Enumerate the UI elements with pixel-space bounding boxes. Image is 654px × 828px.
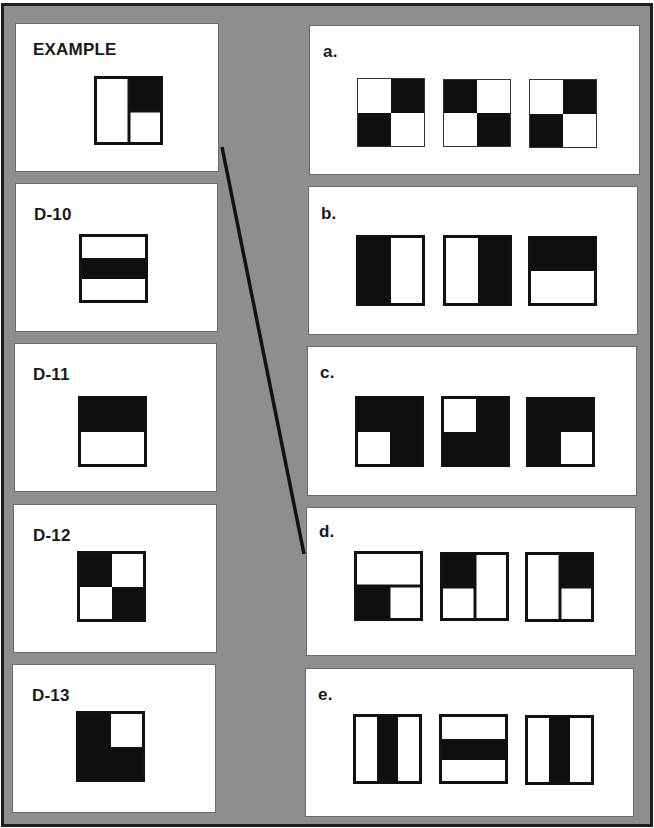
black-region — [129, 79, 161, 111]
panel-label: D-10 — [34, 206, 72, 223]
black-region — [530, 114, 563, 148]
choice-panel-e[interactable]: e. — [305, 668, 634, 817]
choice-figure-2 — [443, 235, 512, 306]
choice-figure-1 — [357, 78, 425, 147]
black-region — [442, 739, 505, 760]
panel-label: EXAMPLE — [33, 41, 117, 58]
black-region — [390, 432, 422, 465]
black-region — [358, 113, 391, 147]
black-region — [529, 400, 592, 432]
choice-panel-c[interactable]: c. — [307, 346, 637, 496]
choice-label: d. — [319, 523, 335, 540]
black-region — [478, 238, 510, 303]
black-region — [81, 399, 144, 432]
choice-figure-3 — [526, 397, 595, 467]
stimulus-figure — [76, 711, 145, 782]
panel-label: D-11 — [33, 366, 70, 383]
black-region — [112, 587, 144, 620]
choice-figure-1 — [355, 396, 424, 467]
black-region — [563, 80, 596, 114]
panel-d-13: D-13 — [12, 664, 216, 813]
horizontal-divider — [560, 586, 592, 589]
black-region — [391, 79, 424, 113]
black-region — [357, 586, 389, 618]
panel-d-12: D-12 — [13, 504, 217, 653]
choice-label: a. — [323, 43, 338, 60]
choice-figure-2 — [439, 714, 508, 784]
choice-figure-1 — [354, 551, 423, 621]
black-region — [358, 399, 421, 432]
stimulus-figure — [94, 76, 163, 145]
black-region — [531, 239, 594, 271]
stimulus-figure — [77, 551, 146, 622]
horizontal-divider — [129, 109, 161, 112]
choice-figure-2 — [440, 552, 509, 621]
choice-figure-2 — [443, 79, 511, 147]
black-region — [82, 258, 145, 279]
stimulus-figure — [78, 396, 147, 467]
choice-panel-d[interactable]: d. — [306, 507, 636, 656]
panel-label: D-12 — [33, 527, 71, 544]
black-region — [80, 554, 112, 587]
choice-figure-3 — [528, 236, 597, 306]
black-region — [560, 555, 592, 587]
black-region — [111, 747, 143, 780]
black-region — [377, 717, 398, 781]
black-region — [444, 432, 507, 465]
panel-d-11: D-11 — [14, 343, 217, 492]
choice-label: b. — [321, 205, 337, 222]
choice-figure-1 — [353, 714, 422, 784]
choice-figure-3 — [525, 552, 594, 622]
choice-figure-1 — [356, 235, 425, 306]
choice-label: e. — [318, 686, 333, 703]
choice-label: c. — [320, 364, 335, 381]
panel-example: EXAMPLE — [15, 23, 219, 172]
choice-figure-3 — [525, 715, 594, 785]
choice-figure-2 — [441, 396, 510, 467]
black-region — [359, 238, 391, 303]
black-region — [477, 113, 510, 146]
vertical-divider — [387, 586, 390, 618]
panel-label: D-13 — [32, 687, 70, 704]
choice-figure-3 — [529, 79, 597, 148]
black-region — [476, 399, 508, 432]
horizontal-divider — [443, 585, 475, 588]
horizontal-divider — [357, 585, 420, 588]
black-region — [444, 80, 477, 113]
stimulus-figure — [79, 234, 148, 303]
black-region — [443, 555, 475, 587]
black-region — [79, 714, 111, 779]
black-region — [529, 432, 561, 464]
panel-d-10: D-10 — [15, 183, 218, 332]
choice-panel-a[interactable]: a. — [309, 25, 640, 175]
choice-panel-b[interactable]: b. — [308, 186, 638, 335]
black-region — [549, 718, 570, 782]
